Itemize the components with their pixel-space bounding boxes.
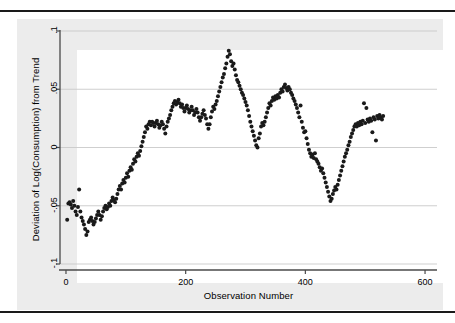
data-point — [336, 183, 340, 187]
data-point — [212, 107, 216, 111]
data-point — [241, 93, 245, 97]
data-point — [263, 120, 267, 124]
data-point — [349, 135, 353, 139]
scatter-plot-svg — [0, 0, 455, 323]
data-point — [340, 164, 344, 168]
gridlines-group — [60, 31, 437, 264]
data-point — [75, 213, 79, 217]
data-point — [233, 67, 237, 71]
data-point — [99, 218, 103, 222]
data-point — [295, 106, 299, 110]
data-point — [182, 109, 186, 113]
x-tick-label: 200 — [166, 277, 206, 287]
data-point — [351, 128, 355, 132]
data-point — [232, 62, 236, 66]
data-point — [138, 149, 142, 153]
data-point — [123, 180, 127, 184]
x-tick-label: 0 — [46, 277, 86, 287]
data-point — [249, 125, 253, 129]
data-point — [307, 148, 311, 152]
data-point — [126, 175, 130, 179]
data-point — [244, 100, 248, 104]
data-point — [234, 73, 238, 77]
data-point — [264, 115, 268, 119]
data-point — [84, 233, 88, 237]
data-point — [334, 187, 338, 191]
data-point — [204, 116, 208, 120]
y-tick-label: 0 — [49, 134, 59, 160]
data-point — [114, 197, 118, 201]
data-point — [86, 229, 90, 233]
data-point — [239, 87, 243, 91]
data-point — [323, 176, 327, 180]
data-point — [206, 127, 210, 131]
data-point — [139, 144, 143, 148]
data-point — [297, 115, 301, 119]
data-point — [113, 200, 117, 204]
data-point — [167, 116, 171, 120]
data-point — [360, 122, 364, 126]
data-point — [306, 142, 310, 146]
data-point — [344, 151, 348, 155]
figure-page: Deviation of Log(Consumption) from Trend… — [0, 0, 455, 323]
data-point — [290, 93, 294, 97]
data-point — [89, 215, 93, 219]
data-point — [257, 136, 261, 140]
data-point — [374, 139, 378, 143]
data-point — [277, 95, 281, 99]
data-point — [166, 120, 170, 124]
y-tick-label: -.1 — [49, 250, 59, 276]
data-point — [101, 210, 105, 214]
data-point — [77, 187, 81, 191]
x-tick-label: 400 — [285, 277, 325, 287]
data-point — [283, 83, 287, 87]
tickmarks-group — [56, 31, 425, 274]
data-point — [261, 123, 265, 127]
data-point — [373, 118, 377, 122]
data-point — [363, 121, 367, 125]
data-point — [251, 129, 255, 133]
data-point — [220, 80, 224, 84]
data-point — [321, 171, 325, 175]
y-axis-title: Deviation of Log(Consumption) from Trend — [30, 30, 41, 270]
data-point — [269, 104, 273, 108]
data-point — [69, 203, 73, 207]
data-point — [161, 122, 165, 126]
data-point — [198, 119, 202, 123]
data-point — [331, 192, 335, 196]
data-point — [242, 97, 246, 101]
data-point — [216, 94, 220, 98]
data-point — [238, 84, 242, 88]
y-tick-label: -.05 — [49, 192, 59, 218]
data-point — [350, 132, 354, 136]
data-point — [342, 159, 346, 163]
data-point — [265, 111, 269, 115]
data-point — [313, 151, 317, 155]
data-point — [100, 214, 104, 218]
data-point — [217, 90, 221, 94]
data-points-group — [65, 49, 385, 237]
data-point — [96, 210, 100, 214]
data-point — [228, 52, 232, 56]
data-point — [255, 146, 259, 150]
data-point — [258, 132, 262, 136]
data-point — [214, 102, 218, 106]
data-point — [65, 218, 69, 222]
data-point — [227, 49, 231, 53]
data-point — [141, 140, 145, 144]
data-point — [246, 108, 250, 112]
data-point — [369, 119, 373, 123]
data-point — [199, 115, 203, 119]
y-tick-label: .1 — [49, 17, 59, 43]
data-point — [293, 99, 297, 103]
data-point — [190, 105, 194, 109]
data-point — [196, 111, 200, 115]
data-point — [348, 140, 352, 144]
data-point — [324, 180, 328, 184]
data-point — [345, 148, 349, 152]
data-point — [248, 120, 252, 124]
data-point — [145, 127, 149, 131]
data-point — [221, 76, 225, 80]
data-point — [300, 120, 304, 124]
data-point — [194, 107, 198, 111]
